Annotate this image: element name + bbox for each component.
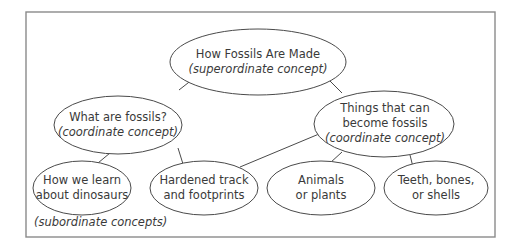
concept-map: How Fossils Are Made (superordinate conc… <box>0 0 519 252</box>
node-animals-plants: Animals or plants <box>296 173 347 203</box>
node-animals-plants-line-2: or plants <box>296 188 347 203</box>
node-things-that-can-line-1: Things that can <box>325 101 445 116</box>
node-root-tag: (superordinate concept) <box>188 62 327 77</box>
node-root-title: How Fossils Are Made <box>188 47 327 62</box>
node-how-we-learn-line-1: How we learn <box>36 173 129 188</box>
node-things-that-can-tag: (coordinate concept) <box>325 131 445 146</box>
node-hardened-track-line-1: Hardened track <box>159 173 248 188</box>
node-what-are-fossils: What are fossils? (coordinate concept) <box>58 110 178 140</box>
node-how-we-learn-line-2: about dinosaurs <box>36 188 129 203</box>
node-hardened-track: Hardened track and footprints <box>159 173 248 203</box>
node-teeth-bones: Teeth, bones, or shells <box>398 173 475 203</box>
node-what-are-fossils-title: What are fossils? <box>58 110 178 125</box>
node-things-that-can-line-2: become fossils <box>325 116 445 131</box>
node-teeth-bones-line-1: Teeth, bones, <box>398 173 475 188</box>
node-teeth-bones-line-2: or shells <box>398 188 475 203</box>
node-things-that-can: Things that can become fossils (coordina… <box>325 101 445 146</box>
node-root: How Fossils Are Made (superordinate conc… <box>188 47 327 77</box>
subordinate-concepts-caption: (subordinate concepts) <box>34 215 167 229</box>
node-animals-plants-line-1: Animals <box>296 173 347 188</box>
node-hardened-track-line-2: and footprints <box>159 188 248 203</box>
node-what-are-fossils-tag: (coordinate concept) <box>58 125 178 140</box>
node-how-we-learn: How we learn about dinosaurs <box>36 173 129 203</box>
